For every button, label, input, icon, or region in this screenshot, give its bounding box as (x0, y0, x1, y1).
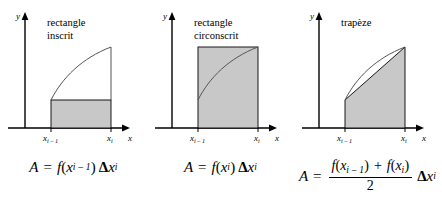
diagram-rectangle-circonscrit: y x xi – 1 xi rectangle circonscrit (147, 0, 294, 152)
formula-lhs: A (299, 169, 308, 185)
formula-equals: = (44, 160, 52, 176)
formula-rectangle-inscrit: A = f(xi – 1)Δxi (0, 152, 147, 211)
numerator-arg1-sub: i – 1 (346, 165, 364, 175)
tick-label-xi-minus-1: xi – 1 (42, 133, 58, 144)
x-axis-label: x (274, 133, 279, 143)
panel-title-line-1: rectangle (47, 17, 86, 28)
tick-label-xi: xi (106, 133, 113, 144)
formula-equals: = (198, 160, 206, 176)
panel-trapeze: y x xi – 1 xi trapèze A = f(xi – 1)+f(xi… (294, 0, 441, 211)
y-axis-label: y (162, 11, 167, 21)
fraction-denominator: 2 (364, 178, 377, 194)
numerator-close1: ) (364, 158, 369, 173)
trapezoid (345, 47, 405, 128)
formula-lhs: A (184, 160, 193, 176)
formula-delta: Δ (417, 169, 426, 185)
panel-title-line-2: circonscrit (194, 30, 238, 41)
y-axis (169, 12, 176, 128)
formula-arg-base: x (221, 160, 228, 176)
formula-fraction: f(xi – 1)+f(xi) 2 (329, 159, 413, 194)
numerator-close2: ) (404, 158, 409, 173)
y-axis (22, 12, 29, 128)
tick-label-xi-minus-1: xi – 1 (189, 133, 205, 144)
formula-dx-sub: i (433, 172, 436, 182)
formula-dx-base: x (427, 169, 434, 185)
diagram-trapeze: y x xi – 1 xi trapèze (294, 0, 441, 152)
formula-rectangle-circonscrit: A = f(xi)Δxi (147, 152, 294, 211)
formula-lhs: A (29, 160, 38, 176)
y-axis (316, 12, 323, 128)
circumscribed-rectangle (198, 47, 258, 128)
formula-close-paren: ) (230, 160, 235, 176)
tick-label-xi-minus-1: xi – 1 (336, 133, 352, 144)
formula-delta: Δ (238, 160, 247, 176)
tick-label-xi: xi (253, 133, 260, 144)
diagram-rectangle-inscrit: y x xi – 1 xi rectangle inscrit (0, 0, 147, 152)
fraction-numerator: f(xi – 1)+f(xi) (329, 159, 413, 177)
formula-delta: Δ (99, 160, 108, 176)
formula-dx-base: x (108, 160, 115, 176)
panel-title-line-2: inscrit (47, 30, 73, 41)
panel-title-line-1: trapèze (341, 17, 372, 28)
inscribed-rectangle (51, 100, 111, 128)
tick-label-xi: xi (400, 133, 407, 144)
formula-dx-sub: i (254, 163, 257, 173)
formula-arg-base: x (66, 160, 73, 176)
y-axis-label: y (15, 11, 20, 21)
panel-rectangle-circonscrit: y x xi – 1 xi rectangle circonscrit A = … (147, 0, 294, 211)
formula-arg-sub: i – 1 (73, 163, 91, 173)
riemann-sum-figure: y x xi – 1 xi rectangle inscrit A = f(xi… (0, 0, 442, 211)
panel-rectangle-inscrit: y x xi – 1 xi rectangle inscrit A = f(xi… (0, 0, 147, 211)
formula-dx-base: x (248, 160, 255, 176)
formula-trapeze: A = f(xi – 1)+f(xi) 2 Δxi (294, 152, 441, 211)
function-curve (51, 47, 111, 100)
formula-close-paren: ) (91, 160, 96, 176)
panel-title-line-1: rectangle (194, 17, 233, 28)
formula-dx-sub: i (115, 163, 118, 173)
formula-equals: = (313, 169, 321, 185)
x-axis-label: x (127, 133, 132, 143)
y-axis-label: y (309, 11, 314, 21)
numerator-plus: + (374, 158, 382, 173)
x-axis-label: x (421, 133, 426, 143)
